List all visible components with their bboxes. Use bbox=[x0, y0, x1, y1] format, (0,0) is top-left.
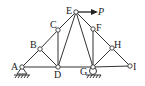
node-G bbox=[91, 65, 95, 69]
label-D: D bbox=[54, 69, 61, 80]
label-E: E bbox=[66, 5, 72, 16]
label-A: A bbox=[11, 61, 19, 72]
label-C: C bbox=[50, 19, 57, 30]
node-F bbox=[91, 27, 95, 31]
load-arrow-P bbox=[76, 9, 98, 15]
label-F: F bbox=[96, 22, 102, 33]
member-DE bbox=[58, 12, 76, 67]
member-GH bbox=[93, 48, 112, 67]
node-B bbox=[38, 47, 42, 51]
member-HI bbox=[112, 48, 130, 66]
label-G: G bbox=[80, 66, 87, 77]
member-GI bbox=[93, 66, 130, 67]
node-A bbox=[20, 65, 24, 69]
label-P: P bbox=[97, 6, 104, 17]
label-H: H bbox=[114, 39, 121, 50]
truss-diagram: A B C D E F G H I P bbox=[0, 0, 145, 86]
member-BD bbox=[40, 49, 58, 67]
label-I: I bbox=[133, 61, 136, 72]
member-BC bbox=[40, 30, 58, 49]
member-AB bbox=[22, 49, 40, 67]
node-E bbox=[74, 10, 78, 14]
label-B: B bbox=[30, 39, 37, 50]
node-I bbox=[128, 64, 132, 68]
